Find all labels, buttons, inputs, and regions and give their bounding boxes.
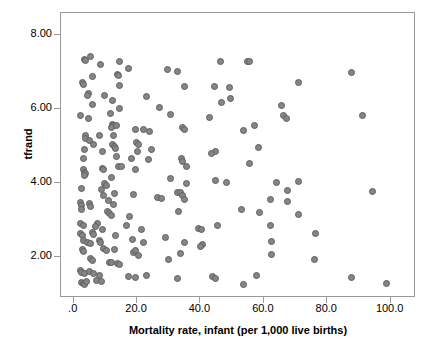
data-point [132,126,139,133]
data-point [143,93,150,100]
data-point [111,190,118,197]
x-tick-mark [326,297,327,303]
y-tick-label: 6.00 [0,102,52,113]
data-point [96,132,103,139]
data-point [198,226,205,233]
data-point [156,104,163,111]
data-point [383,280,390,287]
x-axis-title: Mortality rate, infant (per 1,000 live b… [60,324,416,336]
data-point [80,155,87,162]
data-point [89,257,96,264]
data-point [116,261,123,268]
data-point [81,146,88,153]
data-point [138,226,145,233]
data-point [284,198,291,205]
data-point [87,240,94,247]
data-point [251,122,258,129]
data-point [268,251,275,258]
data-point [107,110,114,117]
data-point [113,122,120,129]
data-point [227,95,234,102]
data-point [130,191,137,198]
data-point [158,195,165,202]
data-point [110,201,117,208]
data-point [369,188,376,195]
data-point [295,79,302,86]
data-point [116,105,123,112]
data-point [162,234,169,241]
data-point [89,73,96,80]
data-point [145,156,152,163]
data-point [126,213,133,220]
data-point [181,196,188,203]
y-tick-label: 2.00 [0,250,52,261]
data-point [77,112,84,119]
data-point [140,239,147,246]
x-tick-label: 20.0 [106,303,166,314]
x-tick-label: 100.0 [360,303,420,314]
data-point [348,69,355,76]
x-tick-mark [136,297,137,303]
data-point [109,97,116,104]
data-point [267,196,274,203]
y-tick-label: 8.00 [0,28,52,39]
data-point [98,278,105,285]
data-point [175,208,182,215]
data-point [255,144,262,151]
x-tick-label: 80.0 [296,303,356,314]
data-point [129,236,136,243]
data-point [85,115,92,122]
data-point [177,250,184,257]
data-point [78,185,85,192]
data-point [80,81,87,88]
data-point [197,243,204,250]
data-point [238,206,245,213]
data-point [214,222,221,229]
data-point [128,155,135,162]
data-point [101,92,108,99]
data-point [165,256,172,263]
data-point [132,166,139,173]
data-point [312,230,319,237]
data-point [240,281,247,288]
data-point [211,83,218,90]
data-point [97,61,104,68]
data-point [240,127,247,134]
data-point [268,238,275,245]
data-point [246,160,253,167]
data-point [90,231,97,238]
data-point [116,82,123,89]
x-tick-label: 60.0 [233,303,293,314]
data-point [78,206,85,213]
data-point [295,211,302,218]
data-point [146,128,153,135]
x-tick-mark [199,297,200,303]
data-point [112,232,119,239]
data-point [278,102,285,109]
data-point [143,272,150,279]
data-point [118,163,125,170]
data-point [273,179,280,186]
data-point [110,132,117,139]
data-point [100,166,107,173]
scatter-plot-figure: tfrand 2.004.006.008.00 .020.040.060.080… [0,0,432,353]
data-point [99,226,106,233]
data-point [164,66,171,73]
data-point [123,222,130,229]
data-point [246,58,253,65]
x-tick-label: 40.0 [169,303,229,314]
data-point [84,92,91,99]
data-point [267,222,274,229]
x-tick-label: .0 [43,303,103,314]
data-point [148,146,155,153]
data-point [253,272,260,279]
data-point [89,101,96,108]
y-tick-label: 4.00 [0,176,52,187]
plot-area [60,12,415,297]
data-point [223,179,230,186]
x-tick-mark [73,297,74,303]
data-point [284,187,291,194]
data-point [181,83,188,90]
data-point [134,148,141,155]
data-point [125,273,132,280]
